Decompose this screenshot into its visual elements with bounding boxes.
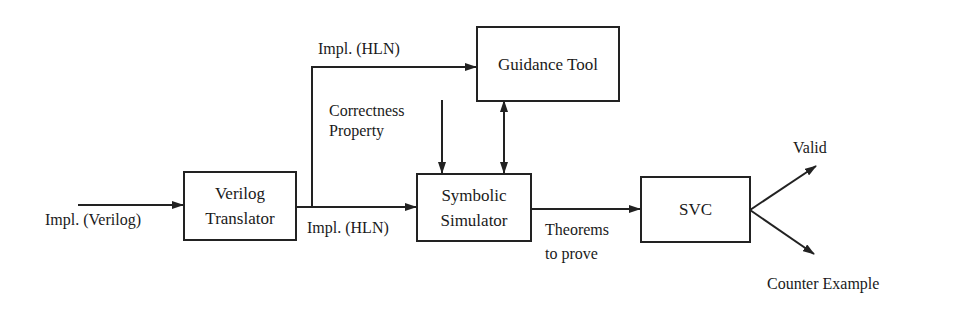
valid-arrow [750,166,816,210]
counter-example-arrow [750,210,814,254]
symbolic-simulator-line1: Symbolic [441,183,506,208]
verilog-translator-line2: Translator [205,206,274,231]
hln-bottom-label: Impl. (HLN) [307,217,389,239]
svc-box: SVC [640,176,751,243]
verilog-translator-line1: Verilog [215,181,265,206]
guidance-tool-box: Guidance Tool [476,26,620,102]
theorems-label-line1: Theorems [545,219,609,241]
svc-label: SVC [679,197,712,222]
valid-label: Valid [793,137,827,159]
symbolic-simulator-line2: Simulator [440,208,507,233]
input-label: Impl. (Verilog) [45,209,141,231]
counter-example-label: Counter Example [767,273,879,295]
verilog-translator-box: Verilog Translator [183,171,297,241]
hln-top-label: Impl. (HLN) [318,38,400,60]
guidance-tool-label: Guidance Tool [498,52,598,77]
theorems-label-line2: to prove [545,243,598,265]
correctness-label-line2: Property [329,120,384,142]
symbolic-simulator-box: Symbolic Simulator [416,173,532,242]
correctness-label-line1: Correctness [329,100,405,122]
